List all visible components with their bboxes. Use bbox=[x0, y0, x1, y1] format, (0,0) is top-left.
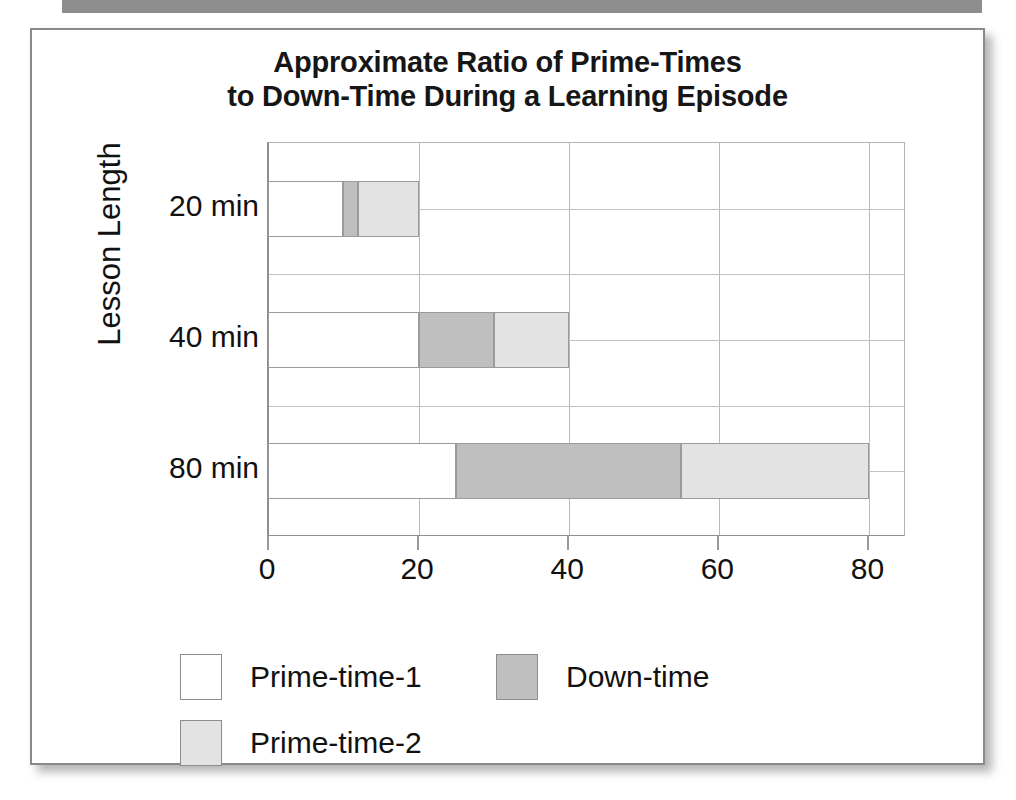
y-axis-tick-labels: 20 min40 min80 min bbox=[77, 142, 259, 536]
x-axis-tick-label: 20 bbox=[377, 552, 457, 586]
y-axis-tick-label: 40 min bbox=[89, 320, 259, 354]
legend-label-prime-time-1: Prime-time-1 bbox=[250, 660, 422, 694]
bar-segment[interactable] bbox=[268, 443, 456, 499]
bar-segment[interactable] bbox=[343, 181, 358, 237]
bar-segment[interactable] bbox=[419, 312, 494, 368]
x-axis-tick-label: 40 bbox=[527, 552, 607, 586]
x-axis-tick bbox=[567, 536, 569, 550]
bar-row bbox=[269, 443, 907, 499]
x-axis-tick bbox=[267, 536, 269, 550]
bar-row bbox=[269, 312, 907, 368]
x-axis-tick-label: 60 bbox=[677, 552, 757, 586]
x-axis-tick-label: 0 bbox=[227, 552, 307, 586]
bar-segment[interactable] bbox=[268, 312, 418, 368]
legend-item-prime-time-2[interactable]: Prime-time-2 bbox=[180, 720, 422, 766]
legend-swatch-icon-prime-time-1 bbox=[180, 654, 222, 700]
chart-legend: Prime-time-1 Prime-time-2 Down-time bbox=[180, 650, 880, 750]
x-axis-tick bbox=[417, 536, 419, 550]
legend-swatch-icon-down-time bbox=[496, 654, 538, 700]
y-axis-tick-label: 20 min bbox=[89, 189, 259, 223]
x-axis-tick bbox=[867, 536, 869, 550]
bar-segment[interactable] bbox=[268, 181, 343, 237]
scan-top-band bbox=[62, 0, 982, 13]
y-axis-tick-label: 80 min bbox=[89, 451, 259, 485]
bar-segment[interactable] bbox=[358, 181, 418, 237]
legend-label-prime-time-2: Prime-time-2 bbox=[250, 726, 422, 760]
legend-label-down-time: Down-time bbox=[566, 660, 709, 694]
plot-area bbox=[267, 142, 905, 536]
x-axis-tick bbox=[717, 536, 719, 550]
x-axis-tick-label: 80 bbox=[827, 552, 907, 586]
chart-title-line-2: to Down-Time During a Learning Episode bbox=[32, 80, 983, 114]
chart-title: Approximate Ratio of Prime-Times to Down… bbox=[32, 46, 983, 113]
x-axis: 020406080 bbox=[267, 536, 905, 596]
legend-item-prime-time-1[interactable]: Prime-time-1 bbox=[180, 654, 422, 700]
bar-row bbox=[269, 181, 907, 237]
bar-segment[interactable] bbox=[456, 443, 681, 499]
figure-card: Approximate Ratio of Prime-Times to Down… bbox=[30, 28, 985, 765]
chart-title-line-1: Approximate Ratio of Prime-Times bbox=[32, 46, 983, 80]
bar-segment[interactable] bbox=[681, 443, 869, 499]
bar-segment[interactable] bbox=[494, 312, 569, 368]
legend-item-down-time[interactable]: Down-time bbox=[496, 654, 709, 700]
legend-swatch-icon-prime-time-2 bbox=[180, 720, 222, 766]
page-canvas: Approximate Ratio of Prime-Times to Down… bbox=[0, 0, 1016, 800]
y-gridline bbox=[269, 406, 904, 407]
y-gridline bbox=[269, 274, 904, 275]
